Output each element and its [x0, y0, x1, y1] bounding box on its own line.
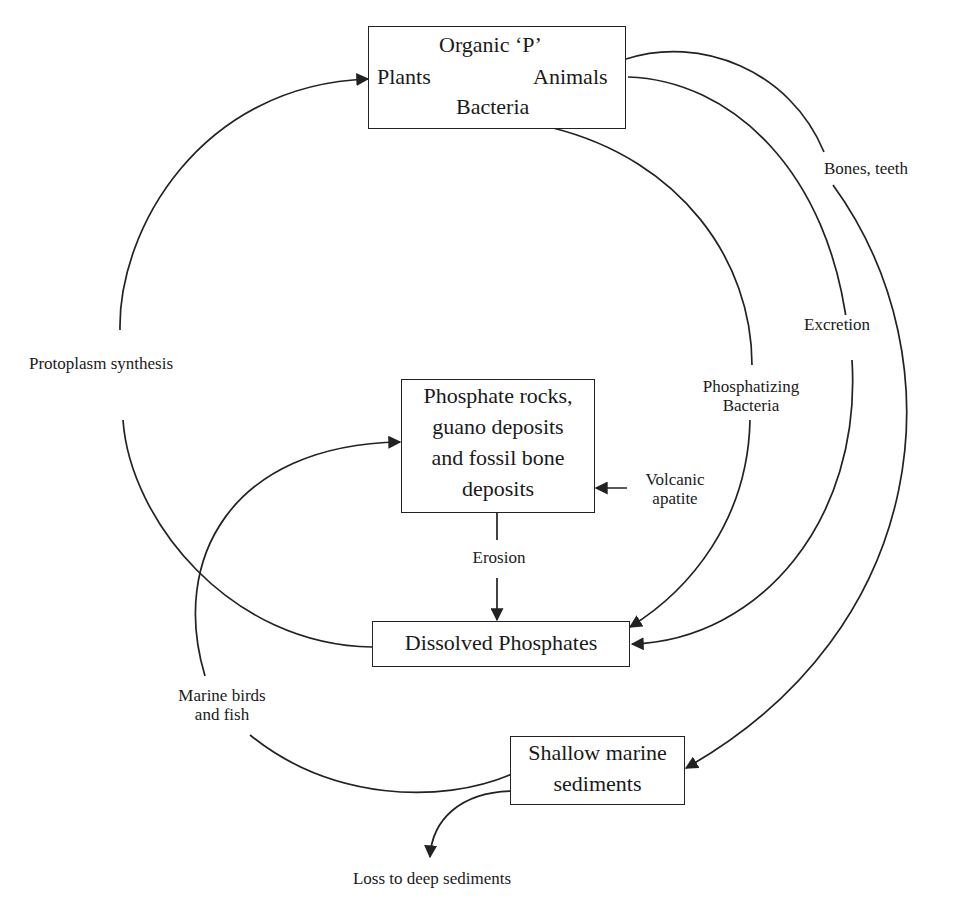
label-marine-birds-fish: Marine birds and fish — [160, 686, 284, 724]
rocks-line-4: deposits — [402, 477, 594, 502]
rocks-line-1: Phosphate rocks, — [402, 384, 594, 409]
label-phosphatizing-bacteria: Phosphatizing Bacteria — [684, 377, 818, 415]
volcanic-line-2: apatite — [629, 489, 721, 508]
node-shallow-marine-sediments: Shallow marine sediments — [510, 736, 685, 805]
phosphatizing-line-2: Bacteria — [686, 396, 816, 415]
rocks-line-3: and fossil bone — [402, 446, 594, 471]
organic-bacteria: Bacteria — [456, 95, 529, 120]
loss-arrow — [430, 791, 512, 857]
rocks-line-2: guano deposits — [402, 415, 594, 440]
volcanic-line-1: Volcanic — [629, 470, 721, 489]
label-loss-deep-sediments: Loss to deep sediments — [320, 869, 544, 888]
excretion-arrow-upper — [628, 77, 848, 333]
phosphatizing-arrow-lower — [630, 420, 750, 627]
protoplasm-arrow-upper — [120, 79, 368, 330]
dissolved-label: Dissolved Phosphates — [373, 631, 629, 656]
label-volcanic-apatite: Volcanic apatite — [627, 470, 723, 508]
label-erosion: Erosion — [452, 548, 546, 567]
shallow-line-1: Shallow marine — [511, 741, 684, 766]
marine-arrow-upper — [195, 442, 400, 676]
protoplasm-arrow-lower — [123, 420, 372, 647]
label-excretion: Excretion — [802, 315, 872, 334]
label-protoplasm-synthesis: Protoplasm synthesis — [27, 354, 175, 373]
phosphatizing-line-1: Phosphatizing — [686, 377, 816, 396]
marine-arrow-lower — [250, 735, 512, 792]
marine-line-2: and fish — [162, 705, 282, 724]
phosphatizing-arrow-upper — [553, 128, 752, 365]
node-phosphate-rocks: Phosphate rocks, guano deposits and foss… — [401, 379, 595, 513]
bones-arrow-upper — [626, 52, 824, 152]
organic-animals: Animals — [533, 65, 608, 90]
node-organic-p: Organic ‘P’ Plants Animals Bacteria — [368, 26, 626, 129]
organic-plants: Plants — [377, 65, 431, 90]
node-dissolved-phosphates: Dissolved Phosphates — [372, 621, 630, 667]
label-bones-teeth: Bones, teeth — [822, 159, 910, 178]
marine-line-1: Marine birds — [162, 686, 282, 705]
shallow-line-2: sediments — [511, 772, 684, 797]
organic-title: Organic ‘P’ — [439, 33, 542, 58]
